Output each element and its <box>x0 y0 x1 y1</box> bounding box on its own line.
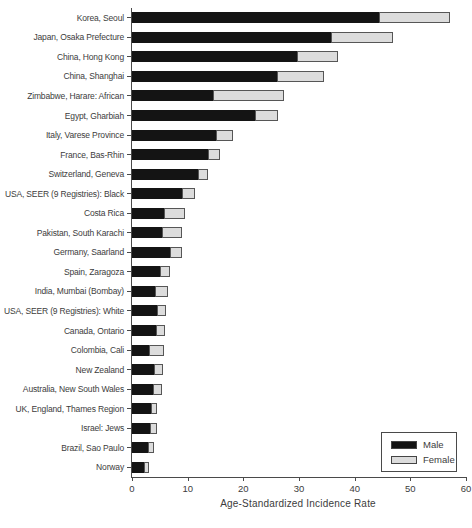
category-label: Korea, Seoul <box>77 13 124 23</box>
category-tick <box>127 291 132 292</box>
stacked-bar <box>132 32 393 43</box>
female-bar-segment <box>277 71 324 82</box>
x-axis-title: Age-Standardized Incidence Rate <box>131 498 465 509</box>
category-label: Australia, New South Wales <box>23 384 124 394</box>
male-bar-segment <box>132 247 171 258</box>
male-bar-segment <box>132 345 150 356</box>
male-bar-segment <box>132 188 183 199</box>
category-label: Egypt, Gharbiah <box>65 111 124 121</box>
legend-entry-female: Female <box>391 454 456 465</box>
bar-row: Australia, New South Wales <box>132 379 466 399</box>
category-label: USA, SEER (9 Registries): White <box>4 306 124 316</box>
category-tick <box>127 232 132 233</box>
x-tick-label: 40 <box>349 483 360 494</box>
bar-row: Costa Rica <box>132 203 466 223</box>
bar-row: Germany, Saarland <box>132 243 466 263</box>
stacked-bar <box>132 286 168 297</box>
female-bar-segment <box>198 169 209 180</box>
stacked-bar <box>132 364 163 375</box>
bar-row: UK, England, Thames Region <box>132 399 466 419</box>
category-label: USA, SEER (9 Registries): Black <box>5 189 124 199</box>
category-tick <box>127 330 132 331</box>
female-bar-segment <box>144 462 149 473</box>
category-label: Costa Rica <box>84 208 124 218</box>
category-tick <box>127 56 132 57</box>
male-bar-segment <box>132 32 332 43</box>
female-bar-segment <box>208 149 220 160</box>
legend-female-label: Female <box>423 454 455 465</box>
legend: Male Female <box>381 432 457 472</box>
female-bar-segment <box>216 130 234 141</box>
bar-row: Spain, Zaragoza <box>132 262 466 282</box>
stacked-bar <box>132 423 157 434</box>
female-bar-segment <box>182 188 195 199</box>
category-label: China, Hong Kong <box>57 52 124 62</box>
stacked-bar <box>132 71 324 82</box>
x-tick-mark <box>355 477 356 481</box>
female-bar-segment <box>157 305 166 316</box>
x-tick-mark <box>299 477 300 481</box>
stacked-bar <box>132 403 157 414</box>
stacked-bar <box>132 384 162 395</box>
stacked-bar <box>132 110 278 121</box>
male-bar-segment <box>132 51 298 62</box>
male-bar-segment <box>132 130 217 141</box>
category-tick <box>127 17 132 18</box>
category-label: Zimbabwe, Harare: African <box>27 91 124 101</box>
male-bar-segment <box>132 227 163 238</box>
x-tick-mark <box>188 477 189 481</box>
stacked-bar <box>132 325 165 336</box>
chart-figure: Korea, SeoulJapan, Osaka PrefectureChina… <box>0 0 472 528</box>
male-bar-segment <box>132 286 156 297</box>
category-label: Japan, Osaka Prefecture <box>33 32 124 42</box>
category-tick <box>127 447 132 448</box>
category-tick <box>127 408 132 409</box>
female-bar-segment <box>156 325 166 336</box>
bar-row: Switzerland, Geneva <box>132 164 466 184</box>
male-bar-segment <box>132 12 380 23</box>
category-tick <box>127 467 132 468</box>
bar-row: USA, SEER (9 Registries): White <box>132 301 466 321</box>
male-bar-segment <box>132 442 149 453</box>
female-bar-segment <box>154 364 162 375</box>
stacked-bar <box>132 90 284 101</box>
category-tick <box>127 213 132 214</box>
x-tick-mark <box>466 477 467 481</box>
female-bar-segment <box>164 208 185 219</box>
legend-male-swatch <box>391 441 417 449</box>
category-label: Colombia, Cali <box>71 345 124 355</box>
category-tick <box>127 174 132 175</box>
female-bar-segment <box>153 384 162 395</box>
category-label: Spain, Zaragoza <box>64 267 124 277</box>
legend-entry-male: Male <box>391 439 456 450</box>
category-label: Israel: Jews <box>81 423 124 433</box>
male-bar-segment <box>132 149 209 160</box>
bar-row: New Zealand <box>132 360 466 380</box>
stacked-bar <box>132 130 233 141</box>
female-bar-segment <box>213 90 284 101</box>
bar-row: USA, SEER (9 Registries): Black <box>132 184 466 204</box>
stacked-bar <box>132 442 154 453</box>
category-tick <box>127 369 132 370</box>
male-bar-segment <box>132 305 158 316</box>
bar-row: Korea, Seoul <box>132 8 466 28</box>
plot-area: Korea, SeoulJapan, Osaka PrefectureChina… <box>131 8 466 478</box>
bar-row: Egypt, Gharbiah <box>132 106 466 126</box>
stacked-bar <box>132 208 185 219</box>
category-tick <box>127 37 132 38</box>
bar-row: Japan, Osaka Prefecture <box>132 28 466 48</box>
x-tick-mark <box>132 477 133 481</box>
stacked-bar <box>132 169 208 180</box>
category-label: Canada, Ontario <box>64 326 124 336</box>
female-bar-segment <box>151 403 158 414</box>
category-label: Norway <box>96 462 124 472</box>
female-bar-segment <box>170 247 182 258</box>
bar-row: China, Hong Kong <box>132 47 466 67</box>
female-bar-segment <box>331 32 393 43</box>
bar-row: Italy, Varese Province <box>132 125 466 145</box>
category-tick <box>127 135 132 136</box>
x-tick-mark <box>410 477 411 481</box>
category-tick <box>127 76 132 77</box>
stacked-bar <box>132 51 338 62</box>
category-tick <box>127 350 132 351</box>
